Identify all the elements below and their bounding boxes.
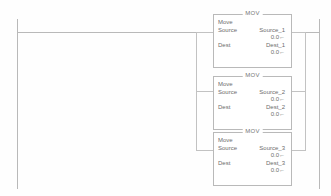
source-tag[interactable]: Source_1 [259, 27, 285, 34]
dest-label: Dest [218, 42, 230, 49]
source-value: 0.0← [271, 152, 285, 159]
source-label: Source [218, 145, 237, 152]
dest-value: 0.0← [271, 49, 285, 56]
instruction-name-label: Move [218, 137, 287, 144]
dest-tag[interactable]: Dest_1 [266, 42, 285, 49]
source-operand-row[interactable]: Source Source_3 0.0← [218, 145, 287, 159]
source-operand-row[interactable]: Source Source_2 0.0← [218, 89, 287, 103]
branch-output-stub-2 [292, 91, 306, 92]
source-tag[interactable]: Source_2 [259, 89, 285, 96]
dest-tag[interactable]: Dest_3 [266, 160, 285, 167]
mov-instruction-block[interactable]: MOV Move Source Source_1 0.0← Dest Dest_… [213, 14, 292, 68]
branch-output-stub-1 [292, 32, 306, 33]
dest-label: Dest [218, 104, 230, 111]
source-value: 0.0← [271, 34, 285, 41]
dest-tag[interactable]: Dest_2 [266, 104, 285, 111]
output-rung-wire [305, 32, 320, 33]
branch-input-stub-3 [196, 150, 213, 151]
mov-instruction-block[interactable]: MOV Move Source Source_3 0.0← Dest Dest_… [213, 132, 292, 186]
branch-input-stub-2 [196, 91, 213, 92]
dest-value: 0.0← [271, 111, 285, 118]
mov-title-label: MOV [242, 10, 263, 17]
source-tag[interactable]: Source_3 [259, 145, 285, 152]
dest-operand-row[interactable]: Dest Dest_3 0.0← [218, 160, 287, 174]
branch-input-stub-1 [196, 32, 213, 33]
instruction-name-label: Move [218, 81, 287, 88]
dest-operand-row[interactable]: Dest Dest_1 0.0← [218, 42, 287, 56]
ladder-logic-canvas: MOV Move Source Source_1 0.0← Dest Dest_… [0, 0, 331, 196]
mov-title-label: MOV [242, 128, 263, 135]
instruction-name-label: Move [218, 19, 287, 26]
source-value: 0.0← [271, 96, 285, 103]
mov-title-label: MOV [242, 72, 263, 79]
source-operand-row[interactable]: Source Source_1 0.0← [218, 27, 287, 41]
mov-instruction-block[interactable]: MOV Move Source Source_2 0.0← Dest Dest_… [213, 76, 292, 130]
source-label: Source [218, 89, 237, 96]
left-power-rail [17, 19, 18, 189]
source-label: Source [218, 27, 237, 34]
right-power-rail [319, 19, 320, 189]
branch-output-stub-3 [292, 150, 306, 151]
dest-operand-row[interactable]: Dest Dest_2 0.0← [218, 104, 287, 118]
dest-label: Dest [218, 160, 230, 167]
dest-value: 0.0← [271, 167, 285, 174]
main-rung-wire [17, 32, 197, 33]
